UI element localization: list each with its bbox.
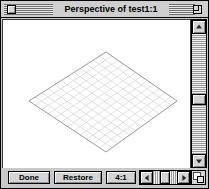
close-box-icon[interactable] — [7, 5, 16, 14]
resize-grow-box-icon[interactable] — [191, 170, 206, 185]
triangle-down-glyph — [196, 159, 202, 163]
done-button[interactable]: Done — [8, 171, 50, 184]
grow-box-square-front — [197, 176, 204, 183]
window-titlebar[interactable]: Perspective of test1:1 — [1, 1, 208, 18]
horizontal-scrollbar[interactable] — [139, 170, 191, 185]
scale-ratio-field[interactable]: 4:1 — [106, 171, 136, 184]
scroll-left-arrow-icon[interactable] — [140, 171, 153, 184]
window-title: Perspective of test1:1 — [53, 3, 169, 16]
horizontal-scrollbar-thumb[interactable] — [160, 171, 170, 184]
triangle-right-glyph — [182, 175, 186, 181]
scroll-down-arrow-icon[interactable] — [192, 154, 206, 168]
perspective-grid-svg — [3, 20, 190, 168]
vertical-scrollbar[interactable] — [191, 19, 207, 169]
triangle-up-glyph — [196, 25, 202, 29]
application-window: Perspective of test1:1 Done Restore 4:1 — [0, 0, 209, 189]
vertical-scrollbar-thumb[interactable] — [192, 94, 206, 105]
perspective-canvas[interactable] — [2, 19, 191, 169]
triangle-left-glyph — [144, 175, 148, 181]
zoom-box-icon[interactable] — [193, 5, 202, 14]
scroll-right-arrow-icon[interactable] — [177, 171, 190, 184]
grid-lines — [35, 56, 171, 148]
titlebar-stripes-right — [165, 4, 195, 15]
bottom-toolbar: Done Restore 4:1 — [2, 168, 208, 187]
scroll-up-arrow-icon[interactable] — [192, 20, 206, 34]
restore-button[interactable]: Restore — [54, 171, 102, 184]
